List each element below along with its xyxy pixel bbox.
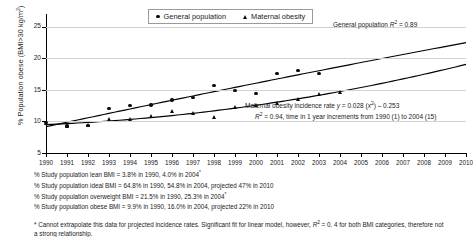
x-axis-tick xyxy=(193,153,194,157)
y-axis-label: % Population obese (BMI>30 kg/m2) xyxy=(15,0,25,140)
data-point-general-population xyxy=(233,89,236,92)
y-axis-tick xyxy=(42,90,46,91)
x-axis-tick xyxy=(256,153,257,157)
data-point-general-population xyxy=(191,96,194,99)
data-point-general-population xyxy=(212,84,215,87)
data-point-maternal-obesity xyxy=(149,114,153,118)
annotation-maternal-line-1: Maternal obesity incidence rate y = 0.02… xyxy=(245,100,436,111)
x-axis-tick xyxy=(46,153,47,157)
y-axis-label-text: % Population obese (BMI>30 kg/m xyxy=(16,11,25,125)
plot-canvas: 5101520251990199119921993199419951996199… xyxy=(46,14,466,153)
gridline xyxy=(46,121,466,122)
x-axis-tick xyxy=(67,153,68,157)
data-point-general-population xyxy=(149,103,152,106)
data-point-maternal-obesity xyxy=(170,109,174,113)
x-axis-tick xyxy=(340,153,341,157)
x-axis-tick xyxy=(235,153,236,157)
trend-curves xyxy=(46,14,466,153)
data-point-maternal-obesity xyxy=(44,121,48,125)
legend-label-general-population: General population xyxy=(164,12,226,21)
x-axis-tick xyxy=(214,153,215,157)
y-axis-tick xyxy=(42,27,46,28)
legend-label-maternal-obesity: Maternal obesity xyxy=(251,12,305,21)
stat-line: % Study population lean BMI = 3.8% in 19… xyxy=(34,169,464,180)
data-point-maternal-obesity xyxy=(65,124,69,128)
data-point-maternal-obesity xyxy=(212,115,216,119)
y-axis-tick xyxy=(42,58,46,59)
y-axis-tick-label: 15 xyxy=(26,87,41,94)
x-axis-tick xyxy=(466,153,467,157)
data-point-maternal-obesity xyxy=(107,117,111,121)
data-point-general-population xyxy=(296,69,299,72)
gridline xyxy=(46,58,466,59)
caveat-footnote: * Cannot extrapolate this data for proje… xyxy=(34,219,446,237)
x-axis-tick-label: 2010 xyxy=(451,160,473,166)
data-point-maternal-obesity xyxy=(233,105,237,109)
y-axis-label-close: ) xyxy=(16,5,25,8)
data-point-general-population xyxy=(317,72,320,75)
data-point-general-population xyxy=(275,72,278,75)
x-axis-tick xyxy=(298,153,299,157)
x-axis-tick xyxy=(319,153,320,157)
x-axis-tick xyxy=(172,153,173,157)
circle-marker-icon xyxy=(156,15,160,19)
x-axis-tick xyxy=(109,153,110,157)
legend-item-general-population: General population xyxy=(156,12,226,21)
data-point-general-population xyxy=(128,104,131,107)
chart-area: % Population obese (BMI>30 kg/m2) 510152… xyxy=(0,0,473,168)
y-axis-tick-label: 25 xyxy=(26,23,41,30)
x-axis-tick xyxy=(277,153,278,157)
stat-line: % Study population obese BMI = 9.9% in 1… xyxy=(34,201,464,212)
annotation-maternal-line-2: R2 = 0.94, time in 1 year increments fro… xyxy=(245,111,436,122)
x-axis-tick xyxy=(403,153,404,157)
y-axis-tick-label: 5 xyxy=(26,150,41,157)
annotation-maternal-obesity-equation: Maternal obesity incidence rate y = 0.02… xyxy=(245,100,436,122)
stat-line: % Study population overweight BMI = 21.5… xyxy=(34,191,464,202)
y-axis-tick-label: 20 xyxy=(26,55,41,62)
stat-line: % Study population ideal BMI = 64.8% in … xyxy=(34,180,464,191)
data-point-maternal-obesity xyxy=(191,111,195,115)
data-point-general-population xyxy=(254,92,257,95)
legend-item-maternal-obesity: Maternal obesity xyxy=(243,12,305,21)
chart-legend: General population Maternal obesity xyxy=(148,9,313,24)
x-axis-tick xyxy=(88,153,89,157)
x-axis-tick xyxy=(151,153,152,157)
x-axis-tick xyxy=(130,153,131,157)
x-axis-tick xyxy=(424,153,425,157)
data-point-maternal-obesity xyxy=(317,92,321,96)
x-axis-tick xyxy=(361,153,362,157)
obesity-trend-figure: % Population obese (BMI>30 kg/m2) 510152… xyxy=(0,0,473,237)
data-point-maternal-obesity xyxy=(128,117,132,121)
data-point-maternal-obesity xyxy=(338,90,342,94)
x-axis-tick xyxy=(445,153,446,157)
y-axis-label-superscript: 2 xyxy=(15,8,21,11)
y-axis-tick-label: 10 xyxy=(26,118,41,125)
footnote-block: % Study population lean BMI = 3.8% in 19… xyxy=(34,169,464,237)
data-point-general-population xyxy=(170,98,173,101)
annotation-general-population-r2: General population R2 = 0.89 xyxy=(333,19,417,30)
x-axis-tick xyxy=(382,153,383,157)
data-point-maternal-obesity xyxy=(86,123,90,127)
gridline xyxy=(46,90,466,91)
triangle-marker-icon xyxy=(243,15,247,19)
